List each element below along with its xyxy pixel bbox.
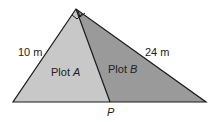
plot-b-label: Plot B bbox=[108, 63, 137, 75]
triangle-diagram: 10 m 24 m Plot A Plot B P bbox=[0, 0, 214, 122]
side-left-label: 10 m bbox=[18, 46, 42, 58]
side-right-label: 24 m bbox=[145, 46, 169, 58]
plot-a-label: Plot A bbox=[51, 66, 80, 78]
point-p-label: P bbox=[107, 106, 115, 118]
